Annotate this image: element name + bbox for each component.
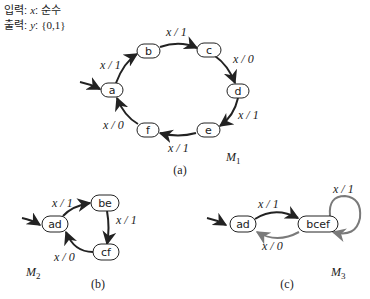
fsm-diagrams: a b c d e f x / 1 x / 1 x / 0 x / 1 x / … (0, 0, 370, 299)
caption-c: (c) (280, 277, 293, 291)
edge-ad-bcef (255, 212, 298, 219)
svg-text:ad: ad (236, 218, 250, 231)
label-a-b: x / 1 (99, 58, 121, 72)
state-b: b (137, 44, 160, 58)
svg-text:be: be (98, 197, 112, 210)
edge-d-e (220, 98, 238, 126)
label-bcef-self: x / 1 (332, 182, 354, 196)
svg-text:bcef: bcef (306, 218, 331, 231)
edge-b-c (160, 44, 197, 48)
edge-cf-ad (66, 232, 93, 252)
caption-b: (b) (91, 277, 105, 291)
label-e-f: x / 1 (167, 141, 189, 155)
svg-text:ad: ad (48, 218, 62, 231)
state-c: c (197, 43, 221, 57)
state-f: f (137, 123, 159, 137)
label-d-e: x / 1 (237, 108, 259, 122)
state-bcef: bcef (298, 216, 338, 232)
svg-text:d: d (235, 85, 242, 98)
svg-text:c: c (206, 44, 212, 57)
state-a: a (101, 83, 123, 97)
svg-text:e: e (205, 124, 212, 137)
state-be: be (91, 195, 119, 211)
label-f-a: x / 0 (102, 118, 124, 132)
svg-text:b: b (145, 45, 152, 58)
label-b-c: x / 1 (165, 25, 187, 39)
initial-arrow (80, 82, 100, 89)
edge-e-f (160, 133, 196, 136)
label-bcef-ad: x / 0 (261, 239, 283, 253)
edge-bcef-ad (257, 232, 299, 238)
diagram-m2: ad be cf x / 1 x / 1 x / 0 M2 (b) (22, 195, 137, 291)
diagram-m3: ad bcef x / 1 x / 0 x / 1 M3 (c) (207, 182, 360, 291)
label-be-cf: x / 1 (115, 213, 137, 227)
edge-be-cf (107, 211, 109, 244)
machine-label-m2: M2 (25, 265, 41, 281)
label-c-d: x / 0 (232, 52, 254, 66)
label-cf-ad: x / 0 (53, 250, 75, 264)
svg-text:a: a (109, 84, 116, 97)
label-ad-be: x / 1 (51, 196, 73, 210)
label-ad-bcef: x / 1 (257, 197, 279, 211)
initial-arrow-m3 (207, 218, 226, 225)
machine-label-m3: M3 (330, 265, 346, 281)
state-ad: ad (42, 216, 68, 232)
machine-label-m1: M1 (225, 150, 241, 166)
initial-arrow-m2 (22, 218, 40, 225)
svg-text:cf: cf (101, 246, 112, 259)
edge-c-d (215, 56, 235, 83)
caption-a: (a) (173, 163, 186, 177)
state-e: e (197, 123, 220, 137)
state-d: d (227, 84, 249, 98)
state-cf: cf (93, 244, 119, 260)
diagram-m1: a b c d e f x / 1 x / 1 x / 0 x / 1 x / … (80, 25, 259, 177)
state-ad-m3: ad (230, 216, 256, 232)
